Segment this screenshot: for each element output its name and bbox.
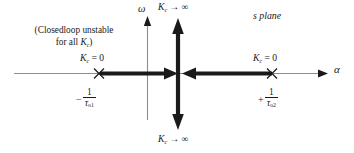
caption-closedloop-unstable: (Closedloop unstable for all Kc) [22, 25, 126, 51]
tau-left-subscript: o1 [88, 102, 94, 108]
right-branch-arrowhead-icon [182, 68, 196, 80]
kc-infinity-top-label: Kc → ∞ [158, 2, 188, 14]
lower-imaginary-branch [172, 73, 184, 130]
upper-branch-arrowhead-icon [172, 18, 184, 34]
root-locus-figure: (Closedloop unstable for all Kc) ω α s p… [0, 0, 354, 153]
alpha-axis-label: α [334, 64, 340, 75]
tau-left-fraction: 1 τo1 [83, 88, 96, 111]
tau-right-denominator: τo2 [265, 97, 278, 111]
right-real-branch [182, 68, 272, 80]
caption-line-2-suffix: ) [89, 37, 92, 47]
caption-line-2-prefix: for all [56, 37, 81, 47]
lower-branch-arrowhead-icon [172, 114, 184, 130]
s-plane-label: s plane [253, 11, 281, 21]
imaginary-axis-arrowhead-icon [144, 16, 151, 26]
kc-subscript: c [259, 58, 262, 64]
root-locus-plot [0, 0, 354, 153]
left-real-branch [100, 68, 178, 80]
tau-left-denominator: τo1 [83, 97, 96, 111]
tau-right-fraction: 1 τo2 [265, 88, 278, 111]
imaginary-axis [144, 16, 151, 120]
kc-subscript: c [164, 139, 167, 145]
upper-imaginary-branch [172, 18, 184, 74]
caption-line-1: (Closedloop unstable [35, 25, 114, 35]
kc-zero-right-text: = 0 [264, 52, 277, 63]
kc-subscript: c [164, 7, 167, 13]
kc-infinity-top-text: → ∞ [169, 1, 188, 12]
kc-infinity-bottom-label: Kc → ∞ [158, 134, 188, 146]
tau-right-sign: + [258, 94, 265, 105]
tau-right-subscript: o2 [270, 102, 276, 108]
kc-infinity-bottom-text: → ∞ [169, 133, 188, 144]
tau-right-value-label: + 1 τo2 [258, 88, 278, 111]
s-plane-text: s plane [253, 10, 281, 21]
kc-zero-left-label: Kc = 0 [80, 53, 104, 65]
tau-left-numerator: 1 [83, 88, 96, 97]
kc-zero-right-label: Kc = 0 [253, 53, 277, 65]
tau-left-value-label: − 1 τo1 [76, 88, 96, 111]
omega-axis-label: ω [138, 4, 145, 15]
kc-subscript: c [86, 58, 89, 64]
real-axis-arrowhead-icon [318, 70, 328, 78]
tau-left-sign: − [76, 94, 83, 105]
kc-zero-left-text: = 0 [91, 52, 104, 63]
tau-right-numerator: 1 [265, 88, 278, 97]
